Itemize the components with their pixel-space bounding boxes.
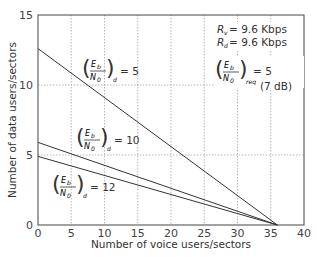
x-tick-label: 40 [297,227,311,240]
series-label-eb-n0-12: ( E b N 0 ) d = 12 [52,171,116,199]
series-line [38,156,277,225]
y-tick-label: 15 [19,9,33,22]
y-axis-ticks: 051015 [19,9,33,232]
x-tick-label: 5 [68,227,75,240]
svg-text:= 5: = 5 [120,65,139,77]
x-tick-label: 0 [35,227,42,240]
y-tick-label: 5 [26,149,33,162]
svg-text:b: b [230,64,234,71]
series-label-eb-n0-10: ( E b N 0 ) d = 10 [76,124,140,152]
svg-text:= 9.6 Kbps: = 9.6 Kbps [229,36,287,48]
svg-text:d: d [107,145,111,152]
y-axis-label: Number of data users/sectors [6,42,18,198]
svg-text:0: 0 [230,77,234,84]
svg-text:N: N [84,142,90,151]
svg-text:b: b [91,132,95,139]
svg-text:= 9.6 Kbps: = 9.6 Kbps [229,23,287,35]
svg-text:= 5: = 5 [253,65,272,77]
series-label-eb-n0-5: ( E b N 0 ) d = 5 [82,55,139,83]
svg-text:v: v [224,29,228,36]
y-tick-label: 0 [26,219,33,232]
svg-text:N: N [223,74,229,83]
chart: 0510152025303540 051015 Number of voice … [0,0,317,257]
svg-text:N: N [60,189,66,198]
svg-text:req: req [246,78,256,86]
svg-text:N: N [90,73,96,82]
svg-text:b: b [67,179,71,186]
svg-text:0: 0 [67,192,71,199]
required-eb-n0-annotation: ( E b N 0 ) req = 5 (7 dB) [214,56,304,92]
svg-text:= 12: = 12 [90,181,116,193]
svg-text:d: d [224,42,228,49]
svg-text:d: d [83,192,87,199]
svg-text:(7 dB): (7 dB) [260,80,292,92]
svg-text:b: b [97,63,101,70]
svg-text:= 10: = 10 [114,134,140,146]
x-tick-label: 35 [264,227,278,240]
rate-annotation: R v = 9.6 Kbps R d = 9.6 Kbps [215,22,297,50]
y-tick-label: 10 [19,79,33,92]
svg-text:0: 0 [97,76,101,83]
svg-text:0: 0 [91,145,95,152]
svg-text:d: d [113,76,117,83]
series-line [38,142,277,225]
x-axis-label: Number of voice users/sectors [91,238,251,250]
